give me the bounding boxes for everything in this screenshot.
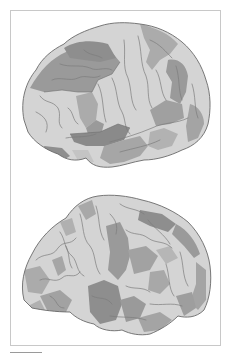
footnote-rule bbox=[10, 352, 42, 353]
brain-illustration-bottom bbox=[0, 0, 233, 359]
